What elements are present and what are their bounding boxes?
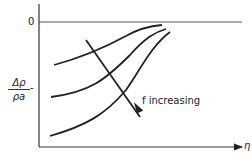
y-label-denominator: ρa: [6, 91, 32, 102]
fraction-bar: [8, 89, 30, 90]
curve-middle: [51, 29, 166, 97]
curve-lower: [50, 32, 170, 136]
diagram: 0 Δρ ρa - η f increasing: [0, 0, 252, 164]
plot-svg: [0, 0, 252, 164]
y-tick-dash: -: [30, 83, 34, 93]
x-axis-label: η: [244, 141, 250, 151]
y-axis-label: Δρ ρa: [6, 77, 32, 102]
y-label-numerator: Δρ: [6, 77, 32, 88]
annotation-label: f increasing: [142, 96, 200, 106]
zero-label: 0: [28, 17, 34, 27]
